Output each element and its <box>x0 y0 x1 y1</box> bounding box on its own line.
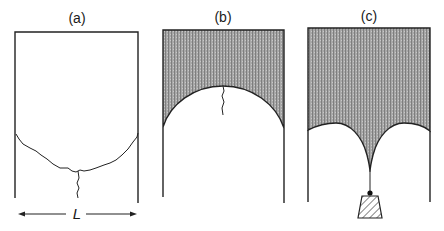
panel-c <box>308 28 430 218</box>
apex-crack-b <box>222 86 224 115</box>
panel-b <box>163 30 284 203</box>
dimension-label-L: L <box>73 205 81 222</box>
dimension-arrow-L: L <box>18 205 137 222</box>
hanging-weight-icon <box>358 196 382 218</box>
box-a-outline <box>15 32 138 203</box>
shaded-region-b <box>163 30 284 128</box>
figure-canvas: (a) (b) (c) L <box>0 0 444 231</box>
panel-label-c: (c) <box>361 8 377 24</box>
fracture-curve-a <box>16 133 138 172</box>
knot-dot-c <box>367 190 372 195</box>
panel-label-a: (a) <box>68 10 85 26</box>
vertical-crack-a <box>77 171 79 198</box>
shaded-region-c <box>308 28 430 172</box>
panel-label-b: (b) <box>214 9 231 25</box>
panel-a: L <box>15 32 138 222</box>
